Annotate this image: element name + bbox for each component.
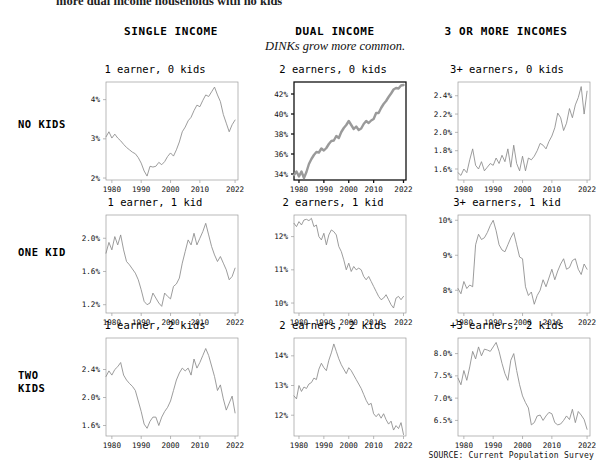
- y-tick-label: 10%: [274, 299, 288, 308]
- plot-frame: [458, 215, 590, 313]
- y-tick-label: 6.5%: [434, 416, 453, 425]
- y-tick-label: 2.0%: [82, 234, 101, 243]
- x-tick-label: 2000: [161, 185, 180, 194]
- x-tick-label: 1980: [290, 441, 309, 450]
- row-label-no-kids: NO KIDS: [18, 118, 66, 131]
- y-tick-label: 36%: [274, 150, 288, 159]
- panel-title: 3+ earners, 1 kid: [412, 196, 602, 209]
- plot-frame: [106, 215, 238, 313]
- row-label-two-kids: TWO KIDS: [18, 369, 45, 395]
- y-tick-label: 42%: [274, 90, 288, 99]
- x-tick-label: 2022: [226, 441, 244, 450]
- plot-frame: [294, 338, 406, 436]
- y-tick-label: 7.5%: [434, 371, 453, 380]
- x-tick-label: 1980: [103, 185, 122, 194]
- plot-frame: [458, 338, 590, 436]
- series-line: [294, 218, 404, 308]
- chart-panel-2-earners-1-kid: 2 earners, 1 kid10%11%12%198019902000201…: [248, 196, 418, 333]
- series-line: [458, 220, 587, 304]
- chart-panel-3-earners-1-kid: 3+ earners, 1 kid8%9%10%1980199020002010…: [412, 196, 602, 333]
- y-tick-label: 8%: [443, 286, 453, 295]
- y-tick-label: 4%: [91, 95, 101, 104]
- series-line: [106, 87, 235, 176]
- plot-frame: [106, 338, 238, 436]
- chart-svg: 1.2%1.6%2.0%19801990200020102022: [60, 209, 250, 333]
- y-tick-label: 34%: [274, 170, 288, 179]
- chart-svg: 1.6%1.8%2.0%2.2%2.4%19801990200020102022: [412, 76, 602, 200]
- chart-svg: 8%9%10%19801990200020102022: [412, 209, 602, 333]
- chart-panel-1-earner-2-kids: 1 earner, 2 kids1.6%2.0%2.4%198019902000…: [60, 319, 250, 456]
- x-tick-label: 2010: [543, 185, 562, 194]
- y-tick-label: 1.8%: [434, 146, 453, 155]
- series-line: [294, 344, 404, 435]
- chart-panel-1-earner-1-kid: 1 earner, 1 kid1.2%1.6%2.0%1980199020002…: [60, 196, 250, 333]
- column-header-single-income: SINGLE INCOME: [96, 25, 246, 38]
- y-tick-label: 3%: [91, 134, 101, 143]
- x-tick-label: 2000: [513, 185, 532, 194]
- x-tick-label: 2000: [340, 185, 359, 194]
- x-tick-label: 2022: [578, 185, 596, 194]
- y-tick-label: 1.6%: [82, 267, 101, 276]
- series-line: [458, 342, 587, 429]
- chart-svg: 10%11%12%19801990200020102022: [248, 209, 418, 333]
- chart-svg: 2%3%4%19801990200020102022: [60, 76, 250, 200]
- x-tick-label: 1980: [455, 441, 474, 450]
- x-tick-label: 2010: [543, 441, 562, 450]
- x-tick-label: 2000: [513, 441, 532, 450]
- y-tick-label: 1.2%: [82, 300, 101, 309]
- x-tick-label: 2022: [394, 441, 412, 450]
- y-tick-label: 12%: [274, 411, 288, 420]
- x-tick-label: 1990: [484, 441, 503, 450]
- panel-title: 3+ earners, 0 kids: [412, 63, 602, 76]
- y-tick-label: 1.6%: [82, 421, 101, 430]
- panel-title: 2 earners, 1 kid: [248, 196, 418, 209]
- x-tick-label: 2010: [191, 441, 210, 450]
- row-label-one-kid: ONE KID: [18, 246, 66, 259]
- x-tick-label: 1990: [132, 185, 151, 194]
- dual-income-subtitle: DINKs grow more common.: [255, 39, 415, 54]
- y-tick-label: 9%: [443, 251, 453, 260]
- panel-title: 1 earner, 0 kids: [60, 63, 250, 76]
- x-tick-label: 2022: [226, 185, 244, 194]
- chart-panel-1-earner-0-kids: 1 earner, 0 kids2%3%4%198019902000201020…: [60, 63, 250, 200]
- x-tick-label: 2010: [364, 441, 383, 450]
- y-tick-label: 10%: [438, 216, 452, 225]
- x-tick-label: 2022: [578, 441, 596, 450]
- y-tick-label: 1.6%: [434, 165, 453, 174]
- y-tick-label: 38%: [274, 130, 288, 139]
- series-line: [106, 223, 235, 306]
- panel-title: 1 earner, 2 kids: [60, 319, 250, 332]
- chart-svg: 34%36%38%40%42%19801990200020102022: [248, 76, 418, 200]
- y-tick-label: 12%: [274, 232, 288, 241]
- x-tick-label: 2022: [394, 185, 412, 194]
- chart-svg: 6.5%7.0%7.5%8.0%19801990200020102022: [412, 332, 602, 456]
- chart-svg: 12%13%14%19801990200020102022: [248, 332, 418, 456]
- panel-title: 2 earners, 2 kids: [248, 319, 418, 332]
- chart-panel-2-earners-2-kids: 2 earners, 2 kids12%13%14%19801990200020…: [248, 319, 418, 456]
- x-tick-label: 1980: [455, 185, 474, 194]
- plot-frame: [294, 215, 406, 313]
- column-header-dual-income: DUAL INCOME: [260, 25, 410, 38]
- clipped-headline-text: more dual income households with no kids: [56, 0, 282, 9]
- source-note: SOURCE: Current Population Survey: [428, 451, 594, 460]
- y-tick-label: 2.4%: [82, 365, 101, 374]
- panel-title: 2 earners, 0 kids: [248, 63, 418, 76]
- panel-title: +3 earners, 2 kids: [412, 319, 602, 332]
- y-tick-label: 2.0%: [434, 128, 453, 137]
- x-tick-label: 1990: [315, 441, 334, 450]
- series-line: [294, 85, 404, 178]
- y-tick-label: 7.0%: [434, 394, 453, 403]
- y-tick-label: 8.0%: [434, 349, 453, 358]
- y-tick-label: 14%: [274, 351, 288, 360]
- x-tick-label: 1990: [315, 185, 334, 194]
- x-tick-label: 2010: [191, 185, 210, 194]
- x-tick-label: 1980: [103, 441, 122, 450]
- series-line: [458, 87, 587, 176]
- y-tick-label: 13%: [274, 381, 288, 390]
- y-tick-label: 40%: [274, 110, 288, 119]
- y-tick-label: 2%: [91, 174, 101, 183]
- x-tick-label: 1990: [132, 441, 151, 450]
- y-tick-label: 2.4%: [434, 91, 453, 100]
- x-tick-label: 1980: [290, 185, 309, 194]
- chart-panel-3-earners-2-kids: +3 earners, 2 kids6.5%7.0%7.5%8.0%198019…: [412, 319, 602, 456]
